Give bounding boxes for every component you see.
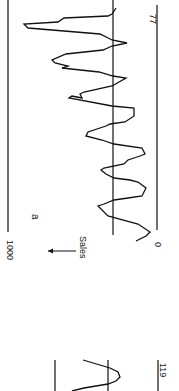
rotated-chart-figure: 77 0 1000 a Sales 119 xyxy=(0,0,179,391)
y-axis-label: Sales xyxy=(78,236,88,259)
x-start-label: 0 xyxy=(153,242,163,247)
panel-b-sales-line xyxy=(72,360,120,391)
panel-b-x-end-label: 119 xyxy=(158,363,168,377)
panel-a: 77 0 1000 a Sales xyxy=(5,0,163,260)
panel-b: 119 xyxy=(55,360,168,391)
sales-arrow-head-icon xyxy=(48,249,53,254)
x-end-label: 77 xyxy=(148,14,158,24)
y-top-label: 1000 xyxy=(5,240,15,260)
sales-line xyxy=(24,8,150,241)
panel-label: a xyxy=(30,214,41,220)
